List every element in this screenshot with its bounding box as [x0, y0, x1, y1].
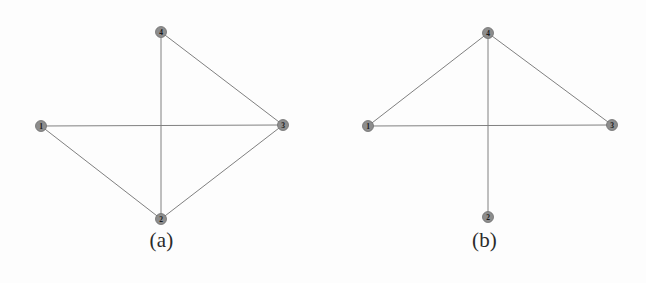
graph-node: 4: [156, 27, 167, 38]
graph-edge: [368, 33, 488, 126]
graph-a: 4132: [0, 0, 323, 240]
graph-node: 2: [483, 212, 494, 223]
graph-edge: [161, 32, 283, 125]
edge-group: [368, 33, 612, 217]
node-circle: [156, 27, 167, 38]
graph-node: 3: [278, 120, 289, 131]
node-circle: [36, 121, 47, 132]
graph-edge: [161, 125, 283, 219]
graph-b: 4132: [323, 0, 646, 240]
graph-edge: [41, 125, 283, 126]
node-circle: [483, 28, 494, 39]
node-circle: [156, 214, 167, 225]
node-circle: [363, 121, 374, 132]
graph-edge: [41, 126, 161, 219]
graph-edge: [368, 125, 612, 126]
panel-a: 4132 (a): [0, 0, 323, 283]
caption-b: (b): [323, 228, 646, 253]
node-circle: [483, 212, 494, 223]
caption-a: (a): [0, 228, 323, 253]
panel-b: 4132 (b): [323, 0, 646, 283]
graph-node: 1: [36, 121, 47, 132]
figure-container: 4132 (a) 4132 (b): [0, 0, 646, 283]
node-circle: [607, 120, 618, 131]
graph-edge: [488, 33, 612, 125]
graph-node: 1: [363, 121, 374, 132]
graph-node: 4: [483, 28, 494, 39]
graph-node: 2: [156, 214, 167, 225]
node-circle: [278, 120, 289, 131]
edge-group: [41, 32, 283, 219]
graph-node: 3: [607, 120, 618, 131]
